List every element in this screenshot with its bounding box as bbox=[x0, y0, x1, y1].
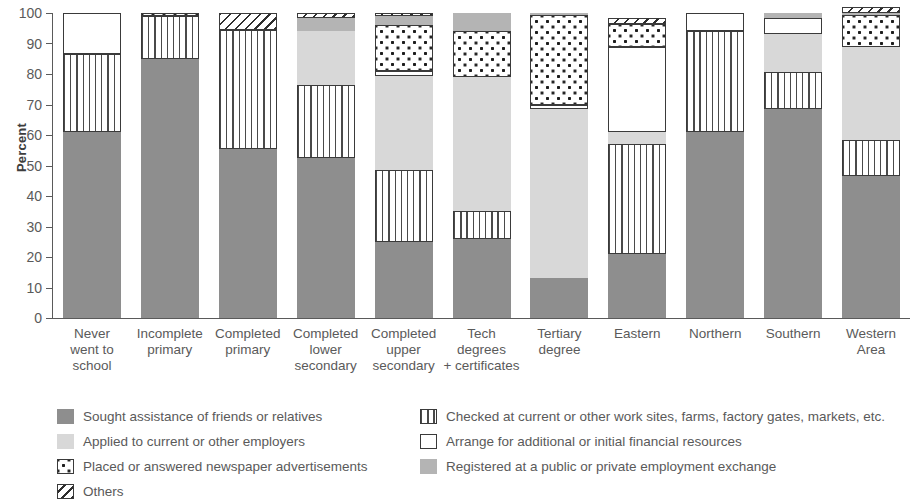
legend-item[interactable]: Checked at current or other work sites, … bbox=[420, 404, 917, 428]
y-tick-label: 50 bbox=[8, 158, 42, 174]
bar-stack[interactable] bbox=[764, 13, 822, 318]
bar-segment-registered[interactable] bbox=[530, 13, 588, 15]
legend-label: Arrange for additional or initial financ… bbox=[446, 434, 742, 449]
bar-segment-checked[interactable] bbox=[764, 72, 822, 109]
bar-segment-registered[interactable] bbox=[453, 13, 511, 31]
legend-label: Sought assistance of friends or relative… bbox=[83, 409, 322, 424]
x-axis-label: Northern bbox=[672, 326, 758, 342]
bar-segment-checked[interactable] bbox=[297, 85, 355, 158]
bar-segment-applied[interactable] bbox=[530, 109, 588, 278]
bar-stack[interactable] bbox=[297, 13, 355, 318]
x-axis-label: Eastern bbox=[594, 326, 680, 342]
legend-column-right: Checked at current or other work sites, … bbox=[420, 404, 917, 479]
bar-stack[interactable] bbox=[686, 13, 744, 318]
bar-segment-checked[interactable] bbox=[842, 140, 900, 177]
x-axis-label: Tertiary degree bbox=[516, 326, 602, 358]
bar-stack[interactable] bbox=[453, 13, 511, 318]
legend-item[interactable]: Arrange for additional or initial financ… bbox=[420, 429, 917, 453]
legend-swatch-icon bbox=[420, 409, 437, 424]
bar-segment-sought[interactable] bbox=[141, 59, 199, 318]
y-tick-label: 0 bbox=[8, 310, 42, 326]
y-tick-label: 90 bbox=[8, 36, 42, 52]
legend-item[interactable]: Registered at a public or private employ… bbox=[420, 454, 917, 478]
bar-segment-applied[interactable] bbox=[375, 76, 433, 171]
legend-column-left: Sought assistance of friends or relative… bbox=[57, 404, 427, 502]
bar-segment-applied[interactable] bbox=[764, 34, 822, 72]
y-tick-mark bbox=[46, 196, 52, 197]
bar-segment-arrange[interactable] bbox=[63, 13, 121, 54]
bar-stack[interactable] bbox=[608, 13, 666, 318]
bar-segment-registered[interactable] bbox=[297, 18, 355, 32]
bar-segment-sought[interactable] bbox=[842, 176, 900, 318]
bar-segment-sought[interactable] bbox=[530, 278, 588, 318]
x-axis-label: Never went to school bbox=[49, 326, 135, 374]
bar-segment-others[interactable] bbox=[297, 13, 355, 18]
bar-stack[interactable] bbox=[63, 13, 121, 318]
bar-segment-registered[interactable] bbox=[375, 16, 433, 25]
bar-segment-registered[interactable] bbox=[764, 13, 822, 18]
bar-segment-placed[interactable] bbox=[375, 25, 433, 71]
legend-item[interactable]: Placed or answered newspaper advertiseme… bbox=[57, 454, 427, 478]
bar-segment-applied[interactable] bbox=[608, 132, 666, 144]
legend-label: Placed or answered newspaper advertiseme… bbox=[83, 459, 367, 474]
x-axis-label: Tech degrees + certificates bbox=[439, 326, 525, 374]
bar-segment-sought[interactable] bbox=[764, 109, 822, 318]
bar-segment-applied[interactable] bbox=[297, 31, 355, 84]
bar-segment-placed[interactable] bbox=[530, 15, 588, 105]
y-tick-label: 60 bbox=[8, 127, 42, 143]
bar-stack[interactable] bbox=[219, 13, 277, 318]
x-axis-line bbox=[52, 318, 910, 319]
bar-segment-sought[interactable] bbox=[375, 242, 433, 318]
bar-segment-sought[interactable] bbox=[219, 149, 277, 318]
bar-segment-checked[interactable] bbox=[63, 54, 121, 132]
bar-stack[interactable] bbox=[842, 13, 900, 318]
bar-stack[interactable] bbox=[141, 13, 199, 318]
bar-segment-others[interactable] bbox=[842, 7, 900, 13]
bar-stack[interactable] bbox=[530, 13, 588, 318]
bar-segment-others[interactable] bbox=[375, 13, 433, 16]
bar-segment-checked[interactable] bbox=[453, 211, 511, 238]
bar-segment-sought[interactable] bbox=[608, 254, 666, 318]
bar-segment-sought[interactable] bbox=[686, 132, 744, 318]
bar-segment-sought[interactable] bbox=[63, 132, 121, 318]
bar-segment-placed[interactable] bbox=[141, 13, 199, 16]
legend-item[interactable]: Sought assistance of friends or relative… bbox=[57, 404, 427, 428]
bar-segment-others[interactable] bbox=[219, 13, 277, 30]
x-axis-labels: Never went to schoolIncomplete primaryCo… bbox=[53, 326, 910, 392]
bar-segment-arrange[interactable] bbox=[764, 18, 822, 35]
bar-segment-arrange[interactable] bbox=[686, 13, 744, 31]
y-tick-label: 70 bbox=[8, 97, 42, 113]
y-tick-label: 100 bbox=[8, 5, 42, 21]
bar-segment-sought[interactable] bbox=[297, 158, 355, 318]
bar-segment-placed[interactable] bbox=[608, 24, 666, 47]
legend-swatch-icon bbox=[57, 434, 74, 449]
bar-segment-arrange[interactable] bbox=[608, 47, 666, 132]
bar-stack[interactable] bbox=[375, 13, 433, 318]
legend-swatch-icon bbox=[57, 484, 74, 499]
bar-segment-arrange[interactable] bbox=[530, 105, 588, 110]
y-tick-label: 10 bbox=[8, 280, 42, 296]
bar-segment-arrange[interactable] bbox=[375, 71, 433, 76]
bar-segment-applied[interactable] bbox=[453, 77, 511, 211]
legend-item[interactable]: Others bbox=[57, 479, 427, 502]
bar-segment-checked[interactable] bbox=[375, 170, 433, 242]
bar-segment-checked[interactable] bbox=[141, 16, 199, 59]
legend-item[interactable]: Applied to current or other employers bbox=[57, 429, 427, 453]
x-axis-label: Completed lower secondary bbox=[283, 326, 369, 374]
bar-segment-sought[interactable] bbox=[453, 239, 511, 318]
bar-segment-applied[interactable] bbox=[842, 47, 900, 140]
chart-root: Percent 0102030405060708090100 Never wen… bbox=[0, 0, 917, 502]
bar-segment-placed[interactable] bbox=[842, 15, 900, 47]
y-tick-mark bbox=[46, 105, 52, 106]
bar-segment-checked[interactable] bbox=[219, 30, 277, 149]
bar-segment-others[interactable] bbox=[608, 18, 666, 24]
bar-segment-checked[interactable] bbox=[686, 31, 744, 132]
legend-label: Registered at a public or private employ… bbox=[446, 459, 776, 474]
bar-segment-placed[interactable] bbox=[453, 31, 511, 77]
y-tick-mark bbox=[46, 227, 52, 228]
x-axis-label: Western Area bbox=[828, 326, 914, 358]
bar-segment-registered[interactable] bbox=[842, 13, 900, 15]
y-tick-label: 30 bbox=[8, 219, 42, 235]
bar-segment-checked[interactable] bbox=[608, 144, 666, 254]
legend-label: Checked at current or other work sites, … bbox=[446, 409, 885, 424]
